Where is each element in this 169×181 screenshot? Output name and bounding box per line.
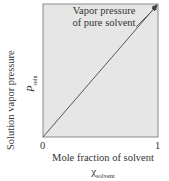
annotation-line2: of pure solvent (65, 17, 143, 29)
y-axis-label: Solution vapor pressure (5, 50, 16, 150)
x-axis-symbol: χsolvent (43, 165, 163, 179)
annotation-line1: Vapor pressure (65, 5, 143, 17)
x-symbol-sub: solvent (96, 172, 115, 179)
y-axis-label-text: Solution vapor pressure (5, 50, 16, 150)
x-tick-1: 1 (155, 140, 160, 151)
x-tick-0: 0 (40, 140, 45, 151)
annotation-pure-solvent: Vapor pressure of pure solvent (65, 5, 143, 29)
y-symbol-p: P (25, 86, 36, 92)
y-axis-symbol: Psoln (25, 76, 38, 92)
y-symbol-sub: soln (32, 76, 38, 86)
x-axis-label: Mole fraction of solvent (43, 152, 163, 163)
